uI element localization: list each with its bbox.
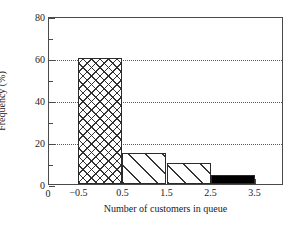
- bar-3: [211, 175, 255, 184]
- y-tick-minor-70: [49, 39, 53, 40]
- histogram-figure: 020406080 −0.50.51.52.53.5 0 Number of c…: [0, 0, 296, 226]
- bar-1: [122, 153, 166, 185]
- y-tick-label-0: 0: [40, 181, 45, 191]
- y-tick-60: [49, 60, 55, 61]
- y-tick-label-40: 40: [35, 97, 45, 107]
- y-tick-80: [49, 18, 55, 19]
- y-axis-title-text: Frequency (%): [0, 71, 7, 131]
- x-axis-title: Number of customers in queue: [48, 204, 283, 214]
- y-tick-40: [49, 102, 55, 103]
- x-tick-label-3: 2.5: [204, 188, 217, 198]
- y-tick-minor-50: [49, 81, 53, 82]
- y-tick-20: [49, 144, 55, 145]
- bar-2: [167, 163, 211, 184]
- x-tick-4: [255, 179, 256, 184]
- plot-area: 020406080 −0.50.51.52.53.5: [48, 17, 283, 185]
- y-tick-minor-10: [49, 165, 53, 166]
- y-tick-label-60: 60: [35, 55, 45, 65]
- x-tick-label-2: 1.5: [160, 188, 173, 198]
- x-tick-label-4: 3.5: [248, 188, 261, 198]
- x-tick-label-0: −0.5: [69, 188, 87, 198]
- y-axis-title: Frequency (%): [0, 71, 7, 131]
- y-tick-label-80: 80: [35, 13, 45, 23]
- y-tick-minor-30: [49, 123, 53, 124]
- bar-0: [78, 58, 122, 184]
- x-axis-origin-label: 0: [46, 189, 51, 199]
- y-tick-label-20: 20: [35, 139, 45, 149]
- x-tick-label-1: 0.5: [116, 188, 129, 198]
- y-tick-0: [49, 186, 55, 187]
